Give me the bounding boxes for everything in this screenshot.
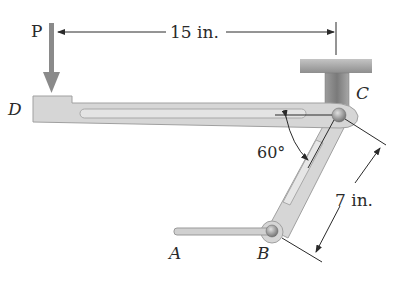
label-15in: 15 in. bbox=[170, 22, 219, 42]
label-angle: 60° bbox=[257, 143, 285, 162]
pin-b bbox=[266, 225, 278, 237]
pin-c bbox=[332, 108, 346, 122]
label-p: P bbox=[31, 21, 42, 41]
lever-dc bbox=[33, 96, 358, 128]
ceiling-support bbox=[300, 59, 372, 73]
label-d: D bbox=[7, 99, 22, 119]
mechanism-diagram: P 15 in. D C 60° 7 in. A B bbox=[0, 0, 404, 285]
label-7in: 7 in. bbox=[335, 190, 373, 210]
label-c: C bbox=[356, 83, 369, 103]
rod-ab bbox=[174, 228, 272, 235]
force-arrow-p bbox=[43, 23, 60, 93]
label-b: B bbox=[256, 243, 270, 263]
label-a: A bbox=[167, 243, 181, 263]
